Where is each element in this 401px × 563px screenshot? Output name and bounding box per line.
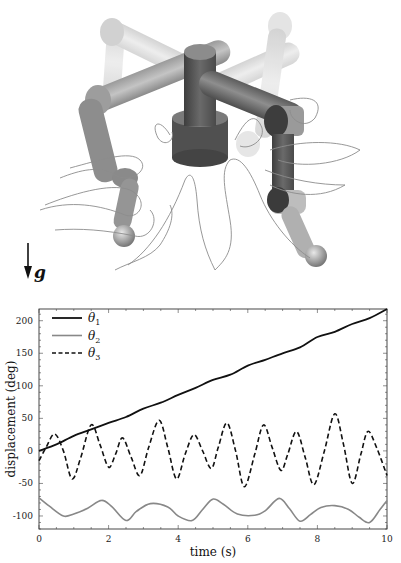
x-tick-label: 0 [36, 534, 42, 544]
leg-front-right [195, 67, 327, 267]
x-tick-label: 8 [315, 534, 321, 544]
x-axis-label: time (s) [190, 545, 236, 559]
x-tick-label: 2 [106, 534, 112, 544]
x-tick-label: 4 [175, 534, 181, 544]
y-tick-label: 50 [22, 413, 34, 423]
y-tick-label: -50 [19, 478, 34, 488]
y-tick-label: -100 [13, 511, 33, 521]
y-tick-label: 100 [16, 381, 33, 391]
x-tick-label: 10 [381, 534, 393, 544]
legend-label: θ1 [88, 311, 100, 327]
gravity-label: g [34, 262, 46, 282]
x-tick-label: 6 [245, 534, 251, 544]
y-axis-label: displacement (deg) [4, 361, 18, 478]
y-tick-label: 0 [27, 446, 33, 456]
legend-label: θ3 [88, 346, 100, 362]
legend-label: θ2 [88, 329, 100, 345]
y-tick-label: 150 [16, 348, 33, 358]
displacement-chart: 0246810-100-50050100150200 θ1θ2θ3 time (… [0, 290, 401, 563]
series-line-theta2 [39, 498, 387, 523]
gravity-arrow: g [24, 243, 46, 282]
series-line-theta3 [39, 414, 387, 487]
robot-illustration: g [0, 0, 401, 290]
chart-legend: θ1θ2θ3 [52, 311, 100, 362]
y-tick-label: 200 [16, 316, 33, 326]
